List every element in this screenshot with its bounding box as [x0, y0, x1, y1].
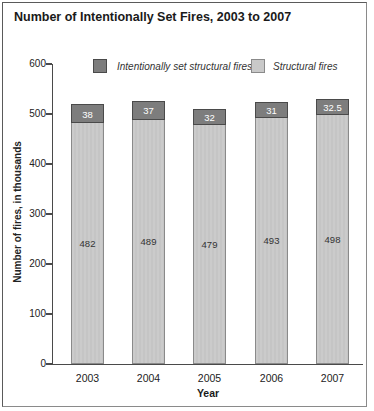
y-axis-tick	[46, 113, 52, 115]
y-axis-tick	[46, 63, 52, 65]
y-axis-tick	[46, 213, 52, 215]
bar-value-intentional: 32	[194, 111, 225, 122]
y-axis-tick-label: 0	[16, 359, 46, 369]
y-axis-tick	[46, 313, 52, 315]
bar-segment-structural-2004: 489	[132, 120, 165, 365]
bar-value-intentional: 37	[133, 105, 164, 116]
x-axis-label-2004: 2004	[137, 372, 160, 384]
y-axis-tick	[46, 263, 52, 265]
plot-area: Year 48238200348937200447932200549331200…	[52, 64, 363, 365]
x-axis-label-2006: 2006	[260, 372, 283, 384]
bar-value-structural: 489	[133, 236, 164, 247]
y-axis-tick-label: 100	[16, 309, 46, 319]
y-axis-tick	[46, 163, 52, 165]
bar-segment-intentional-2006: 31	[255, 102, 288, 118]
bar-segment-structural-2003: 482	[71, 123, 104, 364]
bar-value-intentional: 31	[256, 104, 287, 115]
bar-value-structural: 482	[72, 238, 103, 249]
chart-title: Number of Intentionally Set Fires, 2003 …	[14, 10, 291, 24]
bar-segment-structural-2006: 493	[255, 118, 288, 365]
bar-segment-structural-2007: 498	[316, 115, 349, 364]
x-axis-title: Year	[197, 387, 219, 399]
y-axis-tick-label: 500	[16, 109, 46, 119]
bar-segment-intentional-2003: 38	[71, 104, 104, 123]
bar-value-intentional: 32.5	[317, 101, 348, 112]
bar-value-intentional: 38	[72, 108, 103, 119]
bar-segment-intentional-2004: 37	[132, 101, 165, 120]
x-axis-label-2007: 2007	[321, 372, 344, 384]
y-axis-title: Number of fires, in thousands	[12, 141, 23, 283]
bar-value-structural: 498	[317, 234, 348, 245]
bar-segment-structural-2005: 479	[193, 125, 226, 365]
bar-value-structural: 493	[256, 235, 287, 246]
x-axis-label-2005: 2005	[198, 372, 221, 384]
bar-segment-intentional-2007: 32.5	[316, 99, 349, 115]
y-axis-tick	[46, 363, 52, 365]
y-axis-tick-label: 600	[16, 59, 46, 69]
bar-segment-intentional-2005: 32	[193, 109, 226, 125]
x-axis-label-2003: 2003	[76, 372, 99, 384]
bar-value-structural: 479	[194, 238, 225, 249]
